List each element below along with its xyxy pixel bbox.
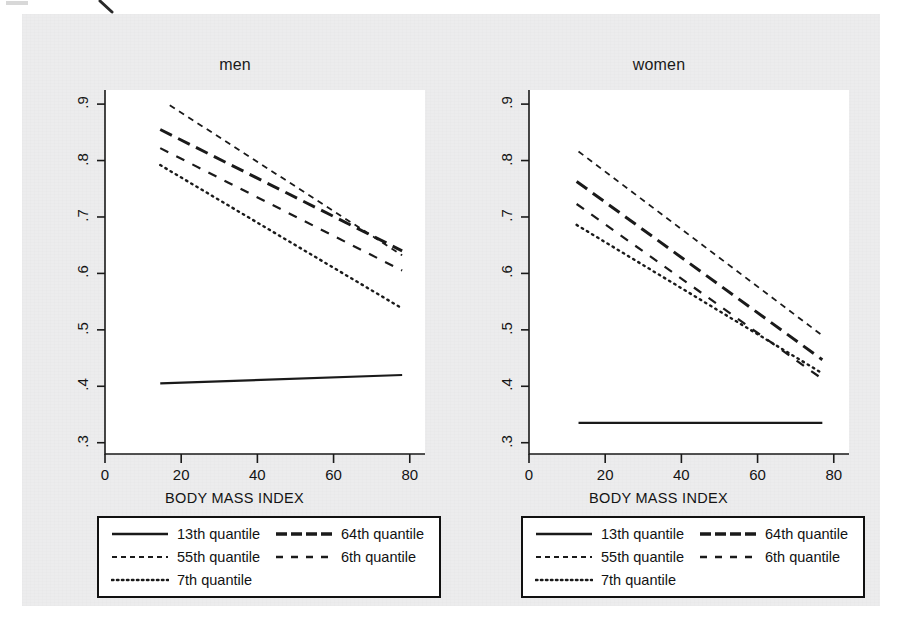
legend-line-sample bbox=[535, 551, 593, 563]
plot-area-men bbox=[30, 14, 440, 484]
legend-label: 64th quantile bbox=[341, 526, 424, 542]
ytick-label: .6 bbox=[74, 259, 91, 285]
legend-entry-55th-quantile: 55th quantile bbox=[535, 549, 689, 565]
ytick-label: .7 bbox=[498, 202, 515, 228]
panel-men: men.3.4.5.6.7.8.9020406080BODY MASS INDE… bbox=[30, 14, 440, 606]
xtick-label: 40 bbox=[661, 466, 701, 483]
legend-line-sample bbox=[699, 528, 757, 540]
legend-entry-7th-quantile: 7th quantile bbox=[111, 572, 265, 588]
ytick-label: .9 bbox=[74, 90, 91, 116]
legend-label: 13th quantile bbox=[601, 526, 684, 542]
legend-label: 7th quantile bbox=[601, 572, 676, 588]
legend-label: 64th quantile bbox=[765, 526, 848, 542]
legend-line-sample bbox=[275, 551, 333, 563]
ytick-label: .4 bbox=[74, 372, 91, 398]
ytick-label: .8 bbox=[74, 146, 91, 172]
panel-women: women.3.4.5.6.7.8.9020406080BODY MASS IN… bbox=[454, 14, 864, 606]
ytick-label: .3 bbox=[74, 428, 91, 454]
ytick-label: .7 bbox=[74, 202, 91, 228]
ytick-label: .4 bbox=[498, 372, 515, 398]
ytick-label: .9 bbox=[498, 90, 515, 116]
ytick-label: .6 bbox=[498, 259, 515, 285]
xtick-label: 80 bbox=[814, 466, 854, 483]
legend-entry-6th-quantile: 6th quantile bbox=[699, 549, 853, 565]
xaxis-title-men: BODY MASS INDEX bbox=[30, 490, 439, 506]
legend-line-sample bbox=[535, 574, 593, 586]
legend-entry-13th-quantile: 13th quantile bbox=[535, 526, 689, 542]
ytick-label: .8 bbox=[498, 146, 515, 172]
legend-line-sample bbox=[111, 551, 169, 563]
xtick-label: 60 bbox=[738, 466, 778, 483]
legend-line-sample bbox=[535, 528, 593, 540]
xtick-label: 60 bbox=[314, 466, 354, 483]
xtick-label: 20 bbox=[161, 466, 201, 483]
legend-line-sample bbox=[275, 528, 333, 540]
xtick-label: 0 bbox=[85, 466, 125, 483]
ytick-label: .5 bbox=[498, 315, 515, 341]
legend-line-sample bbox=[699, 551, 757, 563]
ytick-label: .5 bbox=[74, 315, 91, 341]
xtick-label: 80 bbox=[390, 466, 430, 483]
ytick-label: .3 bbox=[498, 428, 515, 454]
xtick-label: 0 bbox=[509, 466, 549, 483]
legend-label: 55th quantile bbox=[601, 549, 684, 565]
scan-artifact bbox=[0, 0, 260, 14]
legend-label: 6th quantile bbox=[765, 549, 840, 565]
legend-line-sample bbox=[111, 574, 169, 586]
legend-label: 13th quantile bbox=[177, 526, 260, 542]
xtick-label: 40 bbox=[237, 466, 277, 483]
legend-entry-7th-quantile: 7th quantile bbox=[535, 572, 689, 588]
legend-entry-64th-quantile: 64th quantile bbox=[699, 526, 853, 542]
legend-line-sample bbox=[111, 528, 169, 540]
legend-label: 7th quantile bbox=[177, 572, 252, 588]
legend-label: 6th quantile bbox=[341, 549, 416, 565]
legend-entry-64th-quantile: 64th quantile bbox=[275, 526, 429, 542]
legend-label: 55th quantile bbox=[177, 549, 260, 565]
legend-men: 13th quantile64th quantile55th quantile6… bbox=[97, 516, 441, 598]
legend-entry-55th-quantile: 55th quantile bbox=[111, 549, 265, 565]
legend-entry-13th-quantile: 13th quantile bbox=[111, 526, 265, 542]
figure-canvas: men.3.4.5.6.7.8.9020406080BODY MASS INDE… bbox=[22, 14, 880, 606]
legend-women: 13th quantile64th quantile55th quantile6… bbox=[521, 516, 865, 598]
plot-area-women bbox=[454, 14, 864, 484]
xaxis-title-women: BODY MASS INDEX bbox=[454, 490, 863, 506]
xtick-label: 20 bbox=[585, 466, 625, 483]
legend-entry-6th-quantile: 6th quantile bbox=[275, 549, 429, 565]
